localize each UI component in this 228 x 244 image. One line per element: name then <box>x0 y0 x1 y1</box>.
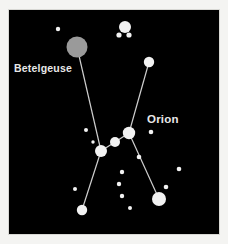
star-belt-right <box>123 127 135 139</box>
star-small-top-a <box>116 32 121 37</box>
constellation-line-bellatrix-to-saiph <box>129 62 149 133</box>
star-small-upper-left <box>56 27 60 31</box>
star-field-b <box>91 140 94 143</box>
star-field-right-a <box>149 130 154 135</box>
star-saiph <box>152 192 166 206</box>
star-field-right-d <box>164 185 169 190</box>
star-rigel <box>77 205 87 215</box>
star-field-right-b <box>137 155 142 160</box>
star-belt-middle <box>110 137 120 147</box>
star-field-lower-mid <box>128 206 132 210</box>
constellation-line-betelgeuse-to-rigel <box>82 151 101 210</box>
star-bellatrix <box>144 57 154 67</box>
star-sword-c <box>120 194 124 198</box>
star-field-lower-left <box>73 187 77 191</box>
constellation-line-bellatrix-to-saiph <box>129 133 159 199</box>
star-small-top-b <box>126 32 131 37</box>
star-field-a <box>84 128 88 132</box>
star-sword-a <box>120 170 124 174</box>
sky-panel: Betelgeuse Orion <box>8 9 220 235</box>
star-field-right-c <box>177 167 182 172</box>
star-chart-figure: Betelgeuse Orion <box>0 0 228 244</box>
constellation-label-orion: Orion <box>147 113 179 125</box>
star-label-betelgeuse: Betelgeuse <box>14 62 72 74</box>
star-sword-b <box>117 182 121 186</box>
star-bright-top <box>119 21 131 33</box>
star-betelgeuse <box>67 37 88 58</box>
star-belt-left <box>95 145 107 157</box>
constellation-canvas <box>9 10 219 234</box>
constellation-line-betelgeuse-to-rigel <box>77 47 101 151</box>
